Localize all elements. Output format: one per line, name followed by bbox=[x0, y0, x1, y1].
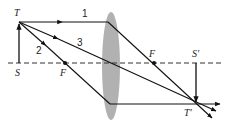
focal-point-right bbox=[152, 61, 156, 65]
ray-3-incident bbox=[19, 22, 56, 38]
label-image-top: T' bbox=[184, 107, 193, 118]
label-ray-1: 1 bbox=[82, 8, 88, 19]
focal-point-left bbox=[63, 61, 67, 65]
label-focal-right: F bbox=[148, 48, 156, 59]
label-focal-left: F bbox=[59, 67, 67, 78]
label-object-top: T bbox=[14, 7, 21, 18]
label-ray-3: 3 bbox=[77, 37, 83, 48]
lens-ray-diagram: T S F F S' T' 1 2 3 bbox=[0, 0, 226, 127]
label-image-base: S' bbox=[192, 48, 200, 59]
label-object-base: S bbox=[15, 67, 20, 78]
ray-2-incident bbox=[19, 22, 44, 44]
label-ray-2: 2 bbox=[36, 45, 42, 56]
ray-2-incident-b bbox=[42, 42, 110, 104]
